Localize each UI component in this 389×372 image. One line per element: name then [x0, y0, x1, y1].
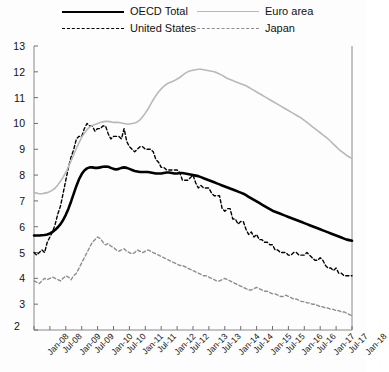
y-axis-tick-label: 12 [13, 67, 25, 78]
legend-item-label: United States [130, 21, 196, 36]
series-line-oecd-total [34, 167, 352, 241]
y-axis-tick-label: 6 [19, 221, 25, 232]
y-axis-tick-label: 8 [19, 170, 25, 181]
axis-frame [34, 46, 352, 330]
y-axis-tick-label: 10 [13, 118, 25, 129]
legend-item-label: OECD Total [130, 4, 188, 19]
chart-legend: OECD TotalUnited StatesEuro areaJapan [0, 4, 366, 38]
x-axis-labels-wrap: 2Jan-08Jul-08Jan-09Jul-09Jan-10Jul-10Jan… [0, 330, 366, 372]
series-line-japan [34, 237, 352, 316]
y-axis-tick-label: 13 [13, 41, 25, 52]
legend-item-label: Euro area [265, 4, 313, 19]
y-axis-tick-label: 11 [14, 92, 25, 103]
y-axis-tick-label: 5 [19, 247, 25, 258]
x-axis-labels: 2Jan-08Jul-08Jan-09Jul-09Jan-10Jul-10Jan… [0, 330, 366, 372]
legend-line-swatch [197, 11, 259, 12]
legend-line-swatch [197, 28, 259, 29]
y-axis-tick-label: 2 [14, 320, 20, 332]
chart-plot-area: 345678910111213 [0, 40, 366, 340]
y-axis-tick-label: 3 [19, 299, 25, 310]
y-axis-tick-label: 4 [19, 273, 25, 284]
y-axis-tick-label: 9 [19, 144, 25, 155]
series-line-united-states [34, 123, 352, 275]
legend-line-swatch [62, 28, 124, 29]
legend-item-label: Japan [265, 21, 295, 36]
chart-canvas [0, 40, 366, 340]
y-axis-labels: 345678910111213 [0, 40, 28, 340]
legend-line-swatch [62, 11, 124, 13]
y-axis-tick-label: 7 [19, 196, 25, 207]
